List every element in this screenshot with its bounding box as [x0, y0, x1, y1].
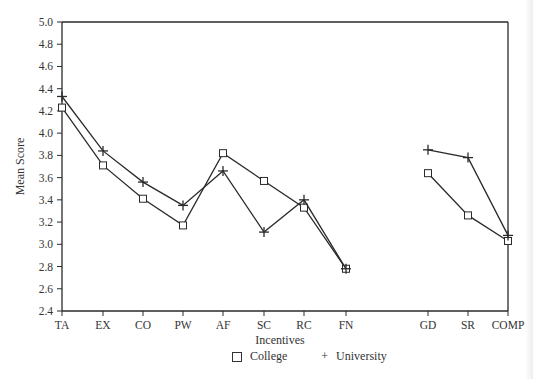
y-tick-label: 2.8: [39, 261, 54, 273]
y-tick-label: 4.6: [39, 60, 54, 72]
plus-marker-icon: +: [321, 349, 328, 364]
x-tick-label: PW: [174, 319, 191, 331]
y-tick-label: 3.6: [39, 172, 54, 184]
series-line-college: [428, 173, 508, 241]
x-tick-label: GD: [420, 319, 437, 331]
x-tick-label: AF: [216, 319, 231, 331]
square-marker-icon: [261, 177, 268, 184]
x-tick-label: FN: [339, 319, 354, 331]
x-tick-label: EX: [95, 319, 111, 331]
y-tick-label: 2.6: [39, 283, 54, 295]
x-tick-label: SC: [257, 319, 271, 331]
legend-item-college: College: [232, 349, 287, 364]
y-tick-label: 4.8: [39, 38, 54, 50]
square-marker-icon: [220, 150, 227, 157]
square-marker-icon: [180, 222, 187, 229]
y-tick-label: 2.4: [39, 305, 54, 317]
legend-label-college: College: [250, 349, 287, 364]
x-tick-label: SR: [461, 319, 475, 331]
square-marker-icon: [59, 104, 66, 111]
legend-item-university: + University: [287, 349, 386, 364]
y-tick-label: 4.2: [39, 105, 54, 117]
line-chart: 5.04.84.64.44.24.03.83.63.43.23.02.82.62…: [0, 0, 533, 379]
series-line-university: [62, 97, 346, 269]
y-tick-label: 5.0: [39, 16, 54, 28]
y-tick-label: 3.0: [39, 238, 54, 250]
x-axis-title: Incentives: [255, 333, 305, 347]
y-tick-label: 4.4: [39, 83, 54, 95]
x-tick-label: RC: [296, 319, 312, 331]
square-marker-icon: [301, 204, 308, 211]
y-tick-label: 3.4: [39, 194, 54, 206]
square-marker-icon: [425, 170, 432, 177]
legend-label-university: University: [336, 349, 387, 364]
x-tick-label: COMP: [492, 319, 525, 331]
series-line-university: [428, 150, 508, 236]
y-axis-title: Mean Score: [13, 138, 27, 196]
y-tick-label: 4.0: [39, 127, 54, 139]
y-tick-label: 3.8: [39, 149, 54, 161]
y-tick-label: 3.2: [39, 216, 54, 228]
page-edge-shadow: [525, 0, 533, 379]
square-marker-icon: [140, 195, 147, 202]
square-marker-icon: [232, 352, 242, 362]
series-line-college: [62, 108, 346, 269]
square-marker-icon: [100, 162, 107, 169]
chart-legend: College + University: [232, 349, 387, 364]
x-tick-label: CO: [135, 319, 151, 331]
x-tick-label: TA: [55, 319, 70, 331]
square-marker-icon: [465, 212, 472, 219]
